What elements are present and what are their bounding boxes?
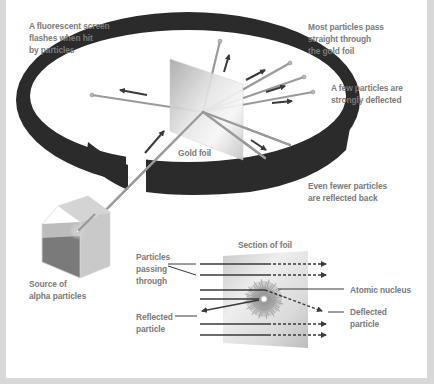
label-atomic-nucleus: Atomic nucleus — [350, 284, 411, 296]
label-line: flashes when hit — [29, 32, 110, 44]
label-section-of-foil: Section of foil — [238, 239, 292, 251]
label-gold-foil: Gold foil — [178, 147, 211, 159]
label-line: Particles — [136, 251, 170, 263]
label-fluorescent-screen: A fluorescent screen flashes when hit by… — [29, 20, 110, 56]
label-fewer-reflected: Even fewer particles are reflected back — [308, 180, 387, 204]
label-alpha-source: Source of alpha particles — [29, 278, 86, 302]
label-line: passing — [136, 263, 170, 275]
label-most-pass-through: Most particles pass straight through the… — [308, 21, 384, 57]
gold-foil — [170, 59, 243, 160]
label-deflected-particle: Deflected particle — [350, 306, 387, 330]
label-line: alpha particles — [29, 290, 86, 302]
label-few-deflected: A few particles are strongly deflected — [331, 82, 403, 106]
label-line: A fluorescent screen — [29, 20, 110, 32]
label-line: Even fewer particles — [308, 180, 387, 192]
label-particles-passing: Particles passing through — [136, 251, 170, 287]
label-line: through — [136, 275, 170, 287]
alpha-source-cube — [42, 196, 110, 278]
label-line: straight through — [308, 33, 384, 45]
label-line: particle — [350, 318, 387, 330]
label-line: A few particles are — [331, 82, 403, 94]
label-line: strongly deflected — [331, 94, 403, 106]
label-line: by particles — [29, 44, 110, 56]
label-line: Most particles pass — [308, 21, 384, 33]
label-line: Deflected — [350, 306, 387, 318]
label-line: particle — [136, 323, 173, 335]
atomic-nucleus — [261, 296, 267, 302]
label-line: are reflected back — [308, 192, 387, 204]
label-line: Reflected — [136, 311, 173, 323]
label-reflected-particle: Reflected particle — [136, 311, 173, 335]
foil-section-diagram — [168, 251, 344, 348]
label-line: the gold foil — [308, 45, 384, 57]
label-line: Source of — [29, 278, 86, 290]
